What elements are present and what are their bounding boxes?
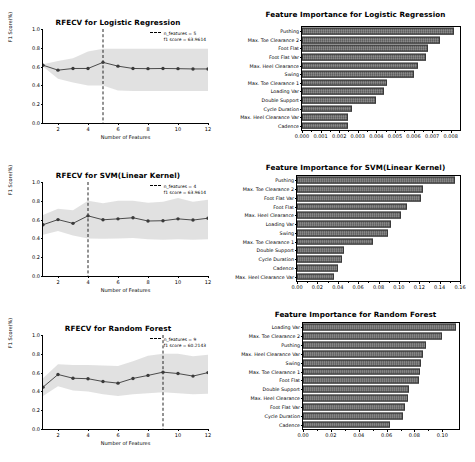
x-axis-tick-label: 4 [86,279,89,285]
data-point-marker [116,217,119,220]
feature-label: Cycle Duration [259,257,294,262]
x-axis-tick-mark [419,281,420,284]
x-axis-tick-mark [178,123,179,125]
rfecv-axes: F1 Score(%) Number of Features 0.00.20.4… [42,335,208,430]
x-axis-tick-label: 4 [86,432,89,438]
data-point-marker [86,67,89,70]
x-axis-tick-mark [208,123,209,125]
data-point-marker [71,377,74,380]
feature-importance-bar [302,79,387,86]
feature-importance-bar [303,386,409,393]
feature-importance-bar [297,221,391,228]
feature-importance-axes: PushingMax. Toe Clearance 2Foot Flat Var… [296,175,461,282]
y-axis-tick-mark [300,40,302,41]
x-axis-minor-tick-mark [409,281,410,283]
feature-importance-bar [303,377,419,384]
y-axis-tick-mark [301,336,303,337]
y-axis-tick-label: 0.2 [32,101,40,107]
feature-importance-bar [297,177,455,184]
data-point-marker [176,217,179,220]
y-axis-tick-mark [301,327,303,328]
feature-label: Max. Toe Clearance 2 [249,334,300,339]
x-axis-minor-tick-mark [428,429,429,431]
x-axis-tick-label: 4 [86,126,89,132]
feature-importance-bar [303,368,420,375]
data-point-marker [131,216,134,219]
x-axis-tick-mark [338,281,339,284]
y-axis-tick-mark [301,389,303,390]
y-axis-tick-label: 0.4 [32,388,40,394]
feature-importance-bar [302,62,418,69]
y-axis-tick-label: 0.2 [32,407,40,413]
row-random-forest: RFECV for Random Forest F1 Score(%) Numb… [0,306,475,460]
x-axis-tick-mark [303,429,304,432]
y-axis-tick-mark [300,100,302,101]
y-axis-tick-mark [300,31,302,32]
x-axis-minor-tick-mark [330,130,331,132]
x-axis-tick-mark [321,130,322,133]
x-axis-tick-mark [414,130,415,133]
feature-label: Swing [285,72,299,77]
feature-label: Foot Flat [273,204,294,209]
feature-label: Foot Flat Var [269,55,299,60]
x-axis-minor-tick-mark [307,281,308,283]
std-deviation-band [43,354,208,396]
x-axis-tick-mark [178,429,179,431]
feature-label: Max. Heel Clearance Var [235,274,294,279]
feature-importance-bar [297,256,342,263]
y-axis-tick-mark [301,380,303,381]
x-axis-minor-tick-mark [401,429,402,431]
x-axis-tick-label: 0.04 [353,432,364,438]
feature-label: Double Support [263,387,301,392]
y-axis-tick-mark [300,83,302,84]
feature-importance-bar [297,238,373,245]
x-axis-tick-mark [118,123,119,125]
feature-label: Max. Heel Clearance Var [241,351,300,356]
x-axis-tick-label: 0.000 [295,133,309,139]
x-axis-tick-label: 0.004 [369,133,383,139]
data-point-marker [71,67,74,70]
y-axis-tick-mark [41,276,43,277]
feature-label: Loading Var [271,89,299,94]
feature-label: Max. Toe Clearance 1 [243,239,294,244]
x-axis-minor-tick-mark [450,281,451,283]
feature-label: Cycle Duration [264,106,299,111]
panel-rfecv-random-forest: RFECV for Random Forest F1 Score(%) Numb… [0,306,236,460]
x-axis-tick-mark [118,276,119,278]
feature-label: Double Support [257,248,295,253]
y-axis-tick-mark [300,91,302,92]
data-point-marker [116,381,119,384]
x-axis-tick-mark [58,429,59,431]
feature-importance-bar [303,395,408,402]
feature-label: Max. Toe Clearance 1 [249,369,300,374]
feature-label: Max. Heel Clearance Var [240,115,299,120]
y-axis-tick-label: 0.8 [32,351,40,357]
y-axis-tick-mark [295,215,297,216]
figure-canvas: RFECV for Logistic Regression F1 Score(%… [0,0,475,462]
feature-label: Cadence [278,123,299,128]
feature-importance-bar [303,421,390,428]
rfecv-plot-area [43,182,208,276]
feature-label: Loading Var [266,222,294,227]
x-axis-minor-tick-mark [345,429,346,431]
panel-rfecv-logistic-regression: RFECV for Logistic Regression F1 Score(%… [0,0,236,154]
y-axis-tick-label: 1.0 [32,26,40,32]
feature-importance-bar [302,71,414,78]
y-axis-tick-label: 0.8 [32,45,40,51]
rfecv-axes: F1 Score(%) Number of Features 0.00.20.4… [42,182,208,277]
feature-importance-bar [297,273,334,280]
feature-importance-bar [297,203,407,210]
x-axis-tick-label: 12 [205,432,211,438]
feature-importance-bar [302,114,348,121]
x-axis-label: Number of Features [43,440,208,446]
data-point-marker [191,218,194,221]
data-point-marker [161,370,164,373]
x-axis-tick-label: 0.10 [437,432,448,438]
x-axis-minor-tick-mark [367,130,368,132]
rfecv-axes: F1 Score(%) Number of Features 0.00.20.4… [42,29,208,124]
chart-title: Feature Importance for Logistic Regressi… [236,10,475,19]
y-axis-label: F1 Score(%) [7,150,13,210]
x-axis-tick-label: 0.001 [313,133,327,139]
x-axis-tick-label: 8 [146,432,149,438]
feature-importance-bar [297,247,344,254]
